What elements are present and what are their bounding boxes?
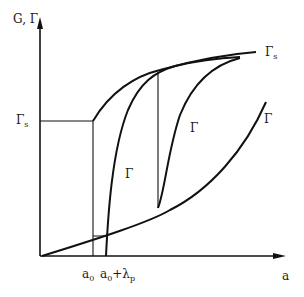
x-tick-a0lp-suffix: +λ bbox=[112, 267, 130, 281]
gamma-curve-middle bbox=[106, 57, 240, 256]
curve-label-gamma-s: Γs bbox=[265, 46, 277, 61]
y-axis-label: G, Γ bbox=[13, 13, 38, 25]
x-tick-a0lp-suffix-sub: p bbox=[130, 274, 135, 283]
gamma-curve-right bbox=[158, 58, 240, 208]
x-tick-a0: a0 bbox=[82, 268, 94, 283]
curve-label-gamma-right: Γ bbox=[264, 113, 272, 125]
gamma-s-curve bbox=[93, 52, 256, 121]
curve-label-gamma-s-sub: s bbox=[273, 52, 277, 61]
x-axis-label: a bbox=[282, 270, 289, 282]
curve-label-gamma-inner: Γ bbox=[190, 122, 198, 134]
curve-label-gamma-middle: Γ bbox=[125, 168, 133, 180]
gamma-s-level-label: Γs bbox=[16, 114, 28, 129]
x-tick-a0-sub: 0 bbox=[89, 274, 94, 283]
x-tick-a0-plus-lambda-p: a0+λp bbox=[100, 268, 135, 283]
gamma-s-level-sub: s bbox=[24, 120, 28, 129]
g-curve bbox=[42, 102, 266, 256]
diagram-canvas bbox=[0, 0, 304, 297]
x-axis-arrow-icon bbox=[273, 253, 286, 259]
